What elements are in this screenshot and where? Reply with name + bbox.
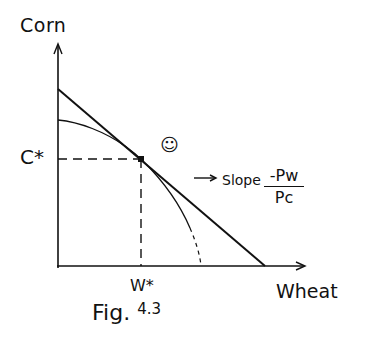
fraction-bar bbox=[264, 186, 304, 187]
figure-caption: Fig. 4.3 bbox=[92, 300, 161, 325]
slope-label: Slope bbox=[222, 172, 261, 188]
ppf-curve-dashed-end bbox=[190, 228, 201, 266]
smiley-icon: ☺ bbox=[160, 134, 179, 155]
c-star-label: C* bbox=[20, 145, 44, 169]
slope-fraction: -Pw Pc bbox=[264, 166, 304, 207]
x-axis-label: Wheat bbox=[276, 280, 338, 302]
y-axis-label: Corn bbox=[20, 14, 66, 36]
figure-caption-prefix: Fig. bbox=[92, 300, 130, 325]
w-star-label: W* bbox=[130, 276, 154, 295]
slope-numerator: -Pw bbox=[264, 166, 304, 185]
slope-denominator: Pc bbox=[264, 188, 304, 207]
figure-caption-number: 4.3 bbox=[137, 300, 161, 318]
optimum-point bbox=[138, 156, 144, 162]
